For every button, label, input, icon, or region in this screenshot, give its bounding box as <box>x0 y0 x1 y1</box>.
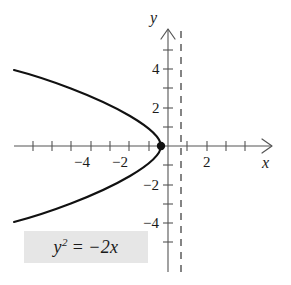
x-axis <box>14 139 272 153</box>
equation-lhs-var: y <box>53 237 61 257</box>
y-axis-label: y <box>150 10 157 26</box>
equation-text: y2 = −2x <box>53 236 118 258</box>
x-tick-label-neg2: −2 <box>112 155 128 170</box>
equation-label-box: y2 = −2x <box>24 231 148 263</box>
focus-point <box>157 142 165 150</box>
equation-equals: = <box>73 237 84 257</box>
x-tick-label-pos2: 2 <box>203 155 211 170</box>
y-tick-label-pos2: 2 <box>152 101 160 116</box>
y-tick-label-pos4: 4 <box>152 62 160 77</box>
equation-rhs: −2x <box>88 237 118 257</box>
y-axis <box>161 29 175 272</box>
parabola-figure: y x −4 −2 2 4 2 −2 −4 y2 = −2x <box>0 0 291 285</box>
x-tick-label-neg4: −4 <box>74 155 90 170</box>
x-axis-label: x <box>262 155 269 171</box>
y-tick-label-neg4: −4 <box>143 216 159 231</box>
y-tick-label-neg2: −2 <box>143 178 159 193</box>
